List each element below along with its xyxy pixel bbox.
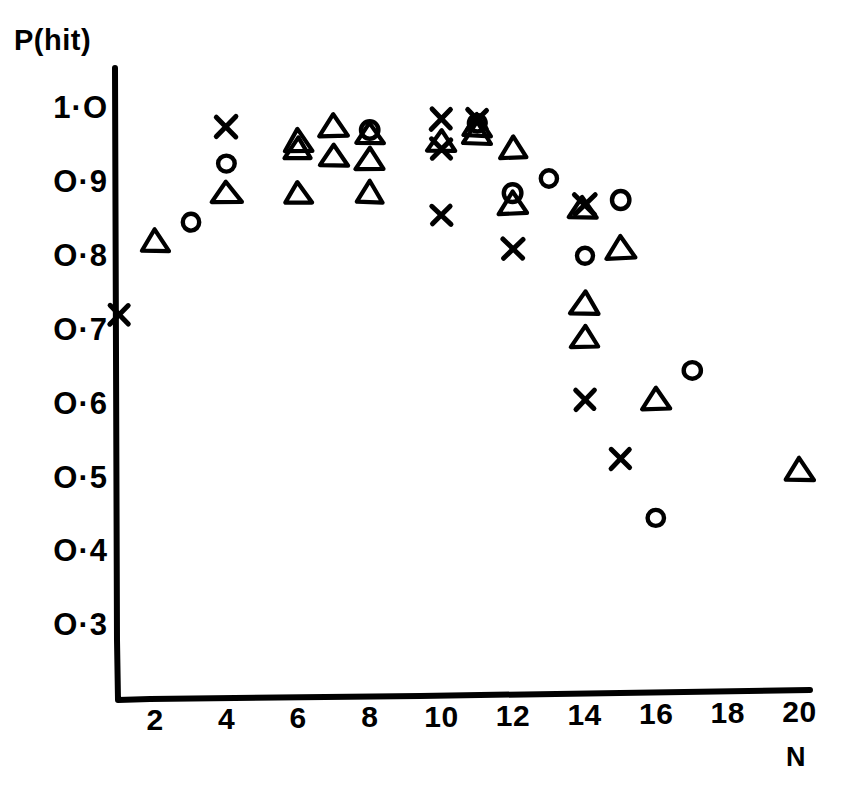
data-point-triangle <box>212 182 242 202</box>
data-point-circle <box>183 214 199 231</box>
data-point-triangle <box>570 291 599 314</box>
data-point-circle <box>577 248 593 264</box>
data-point-triangle <box>607 236 636 259</box>
data-point-cross <box>216 116 236 136</box>
data-point-triangle <box>786 458 814 480</box>
data-point-triangle <box>571 326 598 347</box>
data-point-cross <box>576 390 595 409</box>
data-point-cross <box>503 239 523 258</box>
data-point-cross <box>432 206 451 224</box>
data-point-triangle <box>320 145 348 166</box>
data-point-triangle <box>142 229 169 251</box>
data-point-cross <box>431 109 450 129</box>
data-point-triangle <box>355 148 383 169</box>
data-point-triangle <box>319 114 348 136</box>
series-cross <box>110 109 630 469</box>
data-point-cross <box>110 305 129 324</box>
data-point-triangle <box>285 182 312 203</box>
data-point-circle <box>541 170 557 186</box>
data-point-circle <box>648 510 664 526</box>
data-point-circle <box>684 362 701 379</box>
data-point-circle <box>218 156 235 172</box>
data-point-triangle <box>642 388 670 410</box>
data-point-circle <box>612 191 629 209</box>
data-point-cross <box>432 139 451 158</box>
plot-canvas <box>0 0 844 786</box>
series-triangle <box>142 114 814 480</box>
scatter-plot-figure: P(hit) N 1·OO·9O·8O·7O·6O·5O·4O·3 246810… <box>0 0 844 786</box>
data-markers <box>110 109 814 526</box>
data-point-cross <box>611 449 630 468</box>
data-point-triangle <box>357 181 383 203</box>
data-point-triangle <box>500 136 526 158</box>
